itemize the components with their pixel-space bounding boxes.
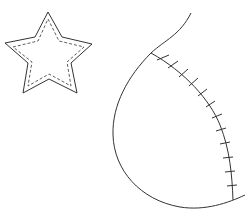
stitch-tick [225,171,235,172]
drawing-canvas [0,0,245,220]
star-outline [5,12,92,93]
illustration [0,0,245,220]
curve-outline [113,13,245,208]
stitch-tick [220,142,230,144]
star-shape [5,12,92,93]
seam-stitch-ticks [157,55,237,186]
seam-line [151,53,233,200]
stitch-tick [227,185,237,186]
stitch-tick [223,157,233,158]
curved-panel-shape [113,13,245,208]
